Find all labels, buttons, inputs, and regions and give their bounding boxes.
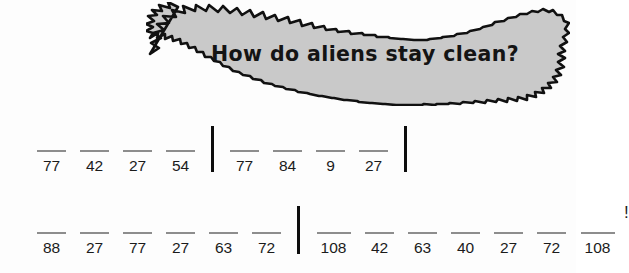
code-cell[interactable]: 27 bbox=[116, 150, 159, 174]
answer-blank[interactable] bbox=[451, 232, 480, 234]
code-number: 27 bbox=[365, 157, 382, 174]
answer-blank[interactable] bbox=[537, 232, 566, 234]
answer-blank[interactable] bbox=[359, 150, 388, 152]
answer-blank[interactable] bbox=[273, 150, 302, 152]
code-cell[interactable]: 72 bbox=[245, 232, 288, 256]
answer-blank[interactable] bbox=[494, 232, 523, 234]
code-cell[interactable]: 40 bbox=[444, 232, 487, 256]
word-divider bbox=[211, 126, 214, 172]
answer-blank[interactable] bbox=[166, 150, 195, 152]
row-2-group-2: 108 42 63 40 27 72 108 bbox=[309, 232, 622, 256]
code-cell[interactable]: 54 bbox=[159, 150, 202, 174]
code-number: 27 bbox=[129, 157, 146, 174]
answer-blank[interactable] bbox=[123, 150, 152, 152]
code-number: 42 bbox=[371, 239, 388, 256]
answer-blank[interactable] bbox=[581, 232, 615, 234]
code-cell[interactable]: 27 bbox=[159, 232, 202, 256]
code-number: 27 bbox=[86, 239, 103, 256]
row-1-group-2: 77 84 9 27 bbox=[223, 150, 395, 174]
code-cell[interactable]: 77 bbox=[116, 232, 159, 256]
code-cell[interactable]: 27 bbox=[73, 232, 116, 256]
code-cell[interactable]: 42 bbox=[358, 232, 401, 256]
answer-blank[interactable] bbox=[166, 232, 195, 234]
code-cell[interactable]: 88 bbox=[30, 232, 73, 256]
code-cell[interactable]: 77 bbox=[223, 150, 266, 174]
code-number: 77 bbox=[129, 239, 146, 256]
code-cell[interactable]: 9 bbox=[309, 150, 352, 174]
code-cell[interactable]: 108 bbox=[573, 232, 622, 256]
answer-blank[interactable] bbox=[80, 232, 109, 234]
word-divider bbox=[404, 126, 407, 172]
code-cell[interactable]: 27 bbox=[487, 232, 530, 256]
code-cell[interactable]: 63 bbox=[401, 232, 444, 256]
code-row-1: 77 42 27 54 77 84 9 27 bbox=[30, 126, 416, 174]
code-cell[interactable]: 84 bbox=[266, 150, 309, 174]
code-number: 27 bbox=[172, 239, 189, 256]
answer-blank[interactable] bbox=[37, 232, 66, 234]
trailing-exclamation: ! bbox=[624, 206, 629, 220]
code-cell[interactable]: 63 bbox=[202, 232, 245, 256]
answer-blank[interactable] bbox=[209, 232, 238, 234]
code-number: 40 bbox=[457, 239, 474, 256]
answer-blank[interactable] bbox=[123, 232, 152, 234]
code-number: 42 bbox=[86, 157, 103, 174]
code-number: 9 bbox=[326, 157, 335, 174]
code-cell[interactable]: 108 bbox=[309, 232, 358, 256]
code-number: 88 bbox=[43, 239, 60, 256]
code-number: 27 bbox=[500, 239, 517, 256]
answer-blank[interactable] bbox=[365, 232, 394, 234]
code-number: 108 bbox=[585, 239, 611, 256]
answer-blank[interactable] bbox=[252, 232, 281, 234]
riddle-bubble: How do aliens stay clean? bbox=[146, 2, 570, 106]
answer-blank[interactable] bbox=[37, 150, 66, 152]
code-number: 72 bbox=[543, 239, 560, 256]
code-number: 77 bbox=[43, 157, 60, 174]
code-cell[interactable]: 72 bbox=[530, 232, 573, 256]
code-number: 54 bbox=[172, 157, 189, 174]
code-number: 84 bbox=[279, 157, 296, 174]
answer-blank[interactable] bbox=[80, 150, 109, 152]
code-number: 72 bbox=[258, 239, 275, 256]
row-1-group-1: 77 42 27 54 bbox=[30, 150, 202, 174]
riddle-question-text: How do aliens stay clean? bbox=[146, 2, 570, 106]
answer-blank[interactable] bbox=[317, 232, 351, 234]
code-cell[interactable]: 77 bbox=[30, 150, 73, 174]
row-2-group-1: 88 27 77 27 63 72 bbox=[30, 232, 288, 256]
word-divider bbox=[297, 206, 300, 254]
code-number: 77 bbox=[236, 157, 253, 174]
answer-blank[interactable] bbox=[230, 150, 259, 152]
answer-blank[interactable] bbox=[316, 150, 345, 152]
code-cell[interactable]: 27 bbox=[352, 150, 395, 174]
code-cell[interactable]: 42 bbox=[73, 150, 116, 174]
code-number: 63 bbox=[215, 239, 232, 256]
answer-blank[interactable] bbox=[408, 232, 437, 234]
code-number: 108 bbox=[321, 239, 347, 256]
code-number: 63 bbox=[414, 239, 431, 256]
code-row-2: 88 27 77 27 63 72 108 42 bbox=[30, 206, 629, 256]
